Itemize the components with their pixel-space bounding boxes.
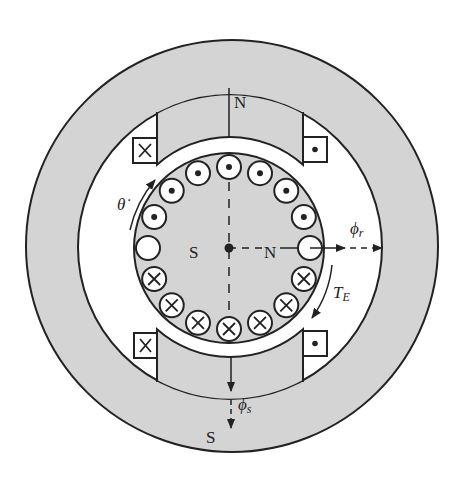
diagram-canvas: N S S N θ̇ ϕr ϕs TE [0,0,454,482]
rotor-conductor-dot [186,161,210,185]
label-stator-south: S [206,428,215,447]
rotor-conductor-dot [274,179,298,203]
dot-icon [283,188,289,194]
rotor-conductor-empty [136,236,160,260]
label-rotor-south: S [189,243,198,262]
dot-icon [226,164,232,170]
rotor-conductor-dot [160,179,184,203]
dot-icon [257,170,263,176]
rotor-flux-symbol: ϕ [350,219,359,238]
rotor-conductor-dot [217,155,241,179]
rotor-flux-subscript: r [359,226,364,240]
dot-icon [312,147,318,153]
dc-machine-diagram: N S S N θ̇ ϕr ϕs TE [0,0,454,482]
rotor-conductor-cross [142,267,166,291]
torque-subscript: E [341,290,350,304]
field-coil-bottom-left [134,333,157,358]
rotor-center-dot [225,244,234,253]
rotor-conductor-cross [217,317,241,341]
field-coil-top-left [133,138,157,163]
rotor-conductor-cross [248,311,272,335]
rotor-conductor-cross [186,311,210,335]
stator-flux-subscript: s [247,402,252,416]
stator-flux-symbol: ϕ [238,395,247,414]
dot-icon [195,170,201,176]
rotor-conductor-dot [248,161,272,185]
label-rotor-north: N [264,243,276,262]
rotor-conductor-cross [292,267,316,291]
field-coil-top-right [303,137,327,162]
dot-icon [151,214,157,220]
dot-icon [169,188,175,194]
label-stator-north: N [234,93,246,112]
dot-icon [301,214,307,220]
dot-icon [312,341,318,347]
rotor-conductor-cross [274,293,298,317]
rotor-conductor-dot [142,205,166,229]
rotor-conductor-cross [160,293,184,317]
field-coil-bottom-right [303,331,327,356]
rotor-conductor-dot [292,205,316,229]
